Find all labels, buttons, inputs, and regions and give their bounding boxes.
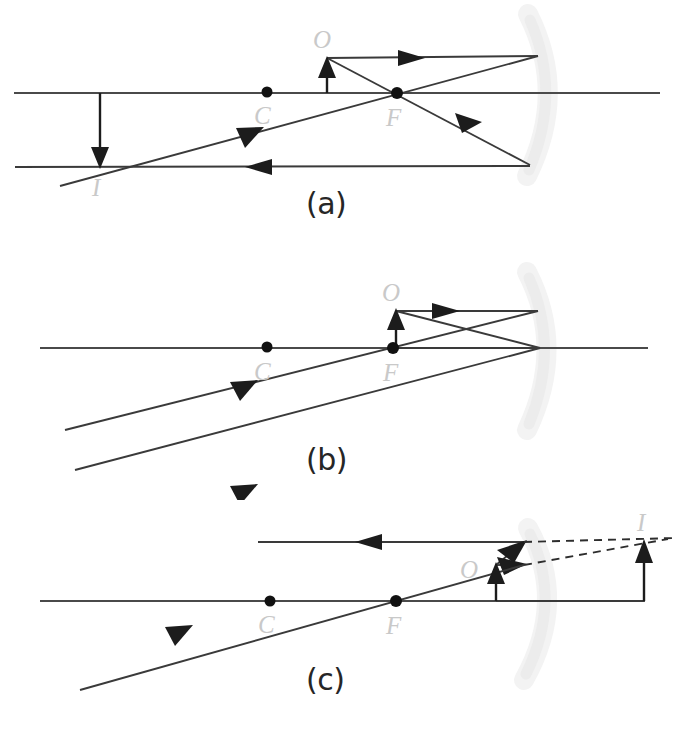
arrowhead-reflected-parallel-c bbox=[355, 534, 382, 550]
panel-b-diagram: C F O bbox=[0, 250, 694, 500]
point-c-dot-b bbox=[262, 342, 273, 353]
panel-label-b: (b) bbox=[306, 442, 347, 477]
panel-a-diagram: C F O I bbox=[0, 0, 694, 250]
label-o-b: O bbox=[382, 279, 400, 306]
panel-label-a: (a) bbox=[306, 186, 346, 221]
label-o-a: O bbox=[313, 26, 331, 53]
point-f-dot-b bbox=[387, 342, 399, 354]
arrowhead-focal-a bbox=[455, 113, 482, 133]
label-i-c: I bbox=[636, 509, 647, 536]
point-c-dot-c bbox=[265, 596, 276, 607]
label-c-c: C bbox=[258, 611, 275, 638]
ray-through-f-c bbox=[80, 565, 524, 690]
label-c-b: C bbox=[254, 358, 271, 385]
arrowhead-reflected-lower-b bbox=[230, 484, 258, 500]
ray-parallel-incident-a bbox=[327, 56, 538, 58]
mirror-arc-c bbox=[524, 528, 547, 680]
object-arrow-b bbox=[387, 308, 405, 348]
image-arrow-c bbox=[635, 539, 653, 601]
point-f-dot-c bbox=[390, 595, 402, 607]
label-f-a: F bbox=[385, 104, 402, 131]
arrowhead-parallel-b bbox=[432, 303, 460, 319]
ray-through-f-incident-a bbox=[327, 58, 530, 165]
point-f-dot-a bbox=[391, 87, 403, 99]
arrowhead-through-f-c bbox=[165, 625, 193, 646]
arrowhead-parallel-a bbox=[398, 50, 425, 66]
panel-c-diagram: C F O I bbox=[0, 505, 694, 740]
label-c-a: C bbox=[254, 102, 271, 129]
panel-label-c: (c) bbox=[306, 662, 344, 697]
label-o-c: O bbox=[460, 556, 478, 583]
point-c-dot-a bbox=[262, 87, 273, 98]
image-arrow-a bbox=[91, 93, 109, 169]
arrowhead-reflected-parallel-a bbox=[245, 159, 272, 175]
label-f-b: F bbox=[382, 359, 399, 386]
figure-canvas: C F O I (a) C F O bbox=[0, 0, 694, 743]
mirror-arc-a bbox=[527, 14, 548, 176]
label-f-c: F bbox=[385, 612, 402, 639]
ray-parallel-reflected-a bbox=[15, 166, 530, 167]
label-i-a: I bbox=[91, 174, 102, 201]
